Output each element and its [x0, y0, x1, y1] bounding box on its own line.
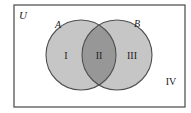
region-iii-label: III	[127, 50, 137, 61]
region-ii-label: II	[96, 50, 103, 61]
region-i-label: I	[64, 50, 67, 61]
region-iv-label: IV	[166, 76, 177, 87]
set-b-label: B	[134, 18, 140, 29]
venn-diagram: U A B I II III IV	[0, 0, 191, 113]
set-a-label: A	[54, 19, 62, 30]
universe-label: U	[19, 9, 28, 21]
